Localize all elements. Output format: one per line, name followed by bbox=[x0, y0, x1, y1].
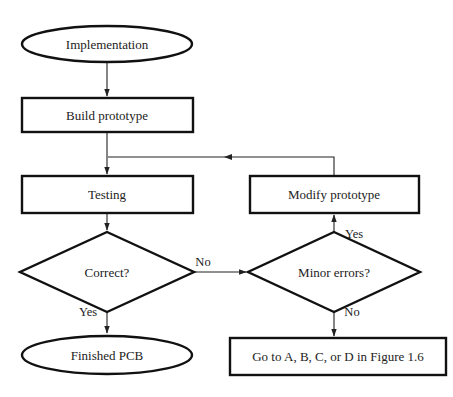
node-finished-pcb-label: Finished PCB bbox=[71, 348, 144, 363]
node-correct-label: Correct? bbox=[85, 265, 130, 280]
node-correct: Correct? bbox=[20, 232, 194, 312]
edge-label-minor-no: No bbox=[344, 305, 359, 319]
node-minor-errors-label: Minor errors? bbox=[298, 265, 370, 280]
node-go-to: Go to A, B, C, or D in Figure 1.6 bbox=[230, 338, 446, 375]
edge-label-minor-yes: Yes bbox=[345, 227, 363, 241]
flowchart: Implementation Build prototype Testing M… bbox=[0, 0, 453, 397]
node-modify-prototype-label: Modify prototype bbox=[288, 187, 380, 202]
node-implementation-label: Implementation bbox=[66, 37, 149, 52]
node-testing-label: Testing bbox=[88, 187, 127, 202]
node-modify-prototype: Modify prototype bbox=[250, 176, 419, 213]
node-implementation: Implementation bbox=[22, 26, 192, 62]
node-build-prototype-label: Build prototype bbox=[66, 108, 148, 123]
node-testing: Testing bbox=[22, 176, 193, 213]
edge-label-correct-no: No bbox=[195, 255, 210, 269]
node-go-to-label: Go to A, B, C, or D in Figure 1.6 bbox=[252, 349, 424, 364]
node-build-prototype: Build prototype bbox=[22, 98, 193, 132]
loop-arrowhead-icon bbox=[224, 154, 232, 160]
edge-modify-loop-back bbox=[108, 157, 334, 176]
node-finished-pcb: Finished PCB bbox=[22, 336, 192, 374]
edge-label-correct-yes: Yes bbox=[79, 305, 97, 319]
node-minor-errors: Minor errors? bbox=[248, 232, 420, 312]
